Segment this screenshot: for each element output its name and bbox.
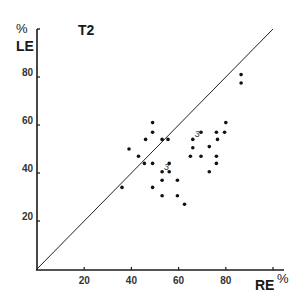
data-point: [120, 186, 124, 190]
y-tick-label: 40: [22, 163, 34, 174]
data-point: [208, 170, 212, 174]
data-point: [176, 194, 180, 198]
data-point: [224, 121, 228, 125]
x-tick-label: 40: [126, 275, 138, 286]
x-tick-label: 60: [173, 275, 185, 286]
data-point: [223, 130, 227, 134]
x-tick-label: 20: [79, 275, 91, 286]
identity-line: [37, 29, 273, 269]
data-point: [137, 154, 141, 158]
y-axis-label: LE: [16, 38, 34, 54]
x-axis-unit: %: [277, 271, 289, 286]
scatter-chart: T2 % LE RE % 2040608020406080 33: [0, 0, 302, 303]
data-point: [215, 154, 219, 158]
data-point: [151, 130, 155, 134]
y-tick-label: 20: [22, 211, 34, 222]
data-point: [215, 130, 219, 134]
data-point: [215, 162, 219, 166]
data-point: [189, 154, 193, 158]
data-point: [176, 178, 180, 182]
multiplicity-annotations: 33: [164, 129, 200, 171]
data-point: [208, 145, 212, 149]
x-tick-label: 80: [220, 275, 232, 286]
data-point: [151, 162, 155, 166]
data-point: [199, 154, 203, 158]
axes: 2040608020406080: [22, 29, 284, 286]
data-point: [143, 162, 147, 166]
data-point: [239, 73, 243, 77]
y-tick-label: 80: [22, 67, 34, 78]
reference-line: [37, 29, 273, 269]
data-point: [166, 138, 170, 142]
multiplicity-label: 3: [164, 162, 169, 172]
data-point: [160, 194, 164, 198]
data-point: [127, 147, 131, 151]
y-axis-unit: %: [16, 21, 28, 36]
multiplicity-label: 3: [195, 129, 200, 139]
data-point: [151, 186, 155, 190]
data-point: [239, 81, 243, 85]
data-point: [191, 146, 195, 150]
data-point: [216, 138, 220, 142]
data-point: [144, 138, 148, 142]
y-tick-label: 60: [22, 115, 34, 126]
data-point: [183, 202, 187, 206]
x-axis-label: RE: [255, 277, 274, 293]
data-points: [120, 73, 243, 206]
data-point: [160, 138, 164, 142]
data-point: [160, 178, 164, 182]
chart-title: T2: [78, 22, 95, 38]
data-point: [151, 121, 155, 125]
